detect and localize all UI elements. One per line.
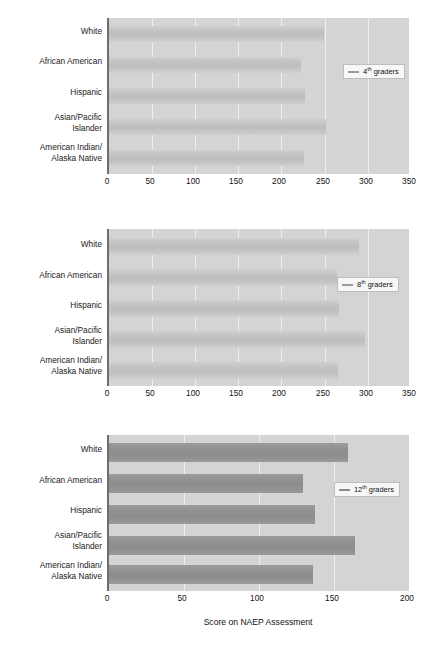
bar-slot [109, 150, 409, 166]
bar-slot [109, 536, 409, 555]
category-label: American Indian/ Alaska Native [4, 142, 107, 163]
category-label-line1: White [81, 26, 102, 36]
x-tick: 100 [186, 388, 200, 398]
bar-hispanic [109, 300, 339, 317]
category-label-line2: Alaska Native [51, 571, 102, 581]
category-labels-12th: White African American Hispanic Asian/Pa… [0, 435, 107, 591]
category-label: Asian/Pacific Islander [4, 325, 107, 346]
x-tick: 0 [105, 388, 110, 398]
category-label-line1: Asian/Pacific [55, 112, 103, 122]
bar-slot [109, 331, 409, 348]
plot-area-4th [107, 18, 409, 174]
category-label-line1: American Indian/ [40, 560, 102, 570]
x-axis-title: Score on NAEP Assessment [107, 617, 409, 627]
category-label: White [4, 239, 107, 250]
x-tick: 50 [145, 176, 154, 186]
category-labels-4th: White African American Hispanic Asian/Pa… [0, 18, 107, 174]
legend-8th-graders: 8th graders [337, 277, 399, 292]
x-axis-12th: 0 50 100 150 200 [107, 593, 409, 607]
legend-label-number: 12 [354, 485, 362, 494]
x-tick: 350 [402, 388, 416, 398]
x-tick: 300 [359, 388, 373, 398]
x-tick: 200 [400, 593, 414, 603]
bar-slot [109, 300, 409, 317]
bar-white [109, 238, 359, 255]
category-label-line2: Islander [72, 541, 102, 551]
bar-slot [109, 505, 409, 524]
chart-panel-4th-graders: White African American Hispanic Asian/Pa… [0, 0, 439, 215]
bar-slot [109, 362, 409, 379]
x-tick: 300 [359, 176, 373, 186]
legend-label-text: graders [372, 67, 399, 76]
legend-label: 12th graders [354, 485, 394, 494]
bar-african-american [109, 269, 337, 286]
bar-slot [109, 238, 409, 255]
bar-slot [109, 443, 409, 462]
category-label-line1: White [81, 239, 102, 249]
bar-slot [109, 565, 409, 584]
category-label: African American [4, 475, 107, 486]
legend-4th-graders: 4th graders [343, 64, 405, 79]
x-tick: 250 [316, 388, 330, 398]
category-label-line1: African American [39, 270, 102, 280]
x-tick: 100 [186, 176, 200, 186]
x-tick: 200 [272, 388, 286, 398]
category-label-line1: Hispanic [70, 505, 102, 515]
legend-label-text: graders [367, 485, 394, 494]
legend-line-swatch-icon [342, 284, 353, 286]
legend-line-swatch-icon [339, 489, 350, 491]
x-axis-8th: 0 50 100 150 200 250 300 350 [107, 388, 409, 402]
legend-label: 4th graders [363, 67, 399, 76]
x-tick: 0 [105, 176, 110, 186]
x-tick: 250 [316, 176, 330, 186]
bar-asian-pacific-islander [109, 119, 326, 135]
x-tick: 150 [229, 388, 243, 398]
bar-african-american [109, 57, 301, 73]
category-label-line1: Hispanic [70, 87, 102, 97]
category-label: African American [4, 56, 107, 67]
bar-hispanic [109, 505, 315, 524]
category-label: White [4, 444, 107, 455]
category-label-line1: American Indian/ [40, 355, 102, 365]
category-label-line1: Asian/Pacific [55, 530, 103, 540]
category-label-line1: African American [39, 56, 102, 66]
legend-line-swatch-icon [348, 71, 359, 73]
category-labels-8th: White African American Hispanic Asian/Pa… [0, 229, 107, 386]
category-label: Hispanic [4, 87, 107, 98]
bar-slot [109, 88, 409, 104]
x-tick: 150 [229, 176, 243, 186]
chart-panel-12th-graders: White African American Hispanic Asian/Pa… [0, 425, 439, 646]
category-label-line2: Islander [72, 336, 102, 346]
x-tick: 150 [325, 593, 339, 603]
category-label-line1: Asian/Pacific [55, 325, 103, 335]
category-label-line2: Alaska Native [51, 366, 102, 376]
category-label-line1: African American [39, 475, 102, 485]
category-label: Asian/Pacific Islander [4, 530, 107, 551]
bar-white [109, 26, 324, 42]
category-label: African American [4, 270, 107, 281]
x-tick: 50 [145, 388, 154, 398]
category-label-line2: Alaska Native [51, 153, 102, 163]
bar-hispanic [109, 88, 305, 104]
bar-american-indian-alaska-native [109, 150, 304, 166]
plot-area-12th [107, 435, 409, 591]
bar-asian-pacific-islander [109, 331, 365, 348]
bar-slot [109, 119, 409, 135]
category-label: American Indian/ Alaska Native [4, 355, 107, 376]
category-label: Hispanic [4, 505, 107, 516]
x-tick: 200 [272, 176, 286, 186]
bar-african-american [109, 474, 303, 493]
x-tick: 350 [402, 176, 416, 186]
category-label: Hispanic [4, 300, 107, 311]
x-tick: 50 [177, 593, 186, 603]
category-label-line1: American Indian/ [40, 142, 102, 152]
category-label-line1: White [81, 444, 102, 454]
category-label: White [4, 26, 107, 37]
bar-american-indian-alaska-native [109, 362, 338, 379]
plot-area-8th [107, 229, 409, 386]
category-label-line1: Hispanic [70, 300, 102, 310]
bar-asian-pacific-islander [109, 536, 355, 555]
x-tick: 0 [105, 593, 110, 603]
category-label: American Indian/ Alaska Native [4, 560, 107, 581]
legend-label-text: graders [366, 280, 393, 289]
